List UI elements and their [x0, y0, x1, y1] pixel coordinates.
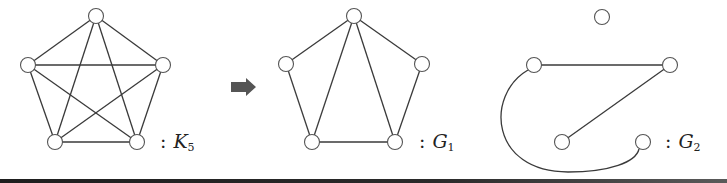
node-right [663, 58, 678, 73]
node-bottom-right [130, 135, 145, 150]
label-k5: :K5 [160, 130, 195, 154]
label-colon: : [665, 130, 671, 152]
node-top [595, 10, 610, 25]
node-right [415, 57, 430, 72]
edge-top-bottom-left [312, 16, 354, 142]
label-colon: : [160, 130, 166, 152]
label-subscript: 1 [448, 141, 455, 154]
label-subscript: 5 [188, 141, 195, 154]
graph-g1 [279, 9, 430, 150]
graph-diagram-canvas [0, 0, 727, 183]
label-symbol: G [432, 130, 447, 152]
edge-top-bottom-left [55, 16, 96, 142]
graph-g2 [501, 10, 677, 173]
graph-k5 [21, 9, 171, 150]
edge-top-bottom-right [96, 16, 137, 142]
edge-right-bottom-right [395, 64, 422, 142]
curved-edge-left-bottom-right [501, 70, 639, 172]
node-left [279, 57, 294, 72]
label-colon: : [419, 130, 425, 152]
node-bottom-right [388, 135, 403, 150]
edge-top-right [354, 16, 422, 64]
label-g2: :G2 [665, 130, 701, 154]
edge-left-bottom-left [28, 65, 55, 142]
label-symbol: G [678, 130, 693, 152]
label-subscript: 2 [694, 141, 701, 154]
edge-top-left [28, 16, 96, 65]
edge-left-bottom-left [286, 64, 312, 142]
node-right [156, 58, 171, 73]
node-left [527, 58, 542, 73]
bottom-border [0, 179, 727, 183]
edge-top-bottom-right [354, 16, 395, 142]
node-bottom-left [305, 135, 320, 150]
label-g1: :G1 [419, 130, 455, 154]
node-top [347, 9, 362, 24]
label-symbol: K [173, 130, 187, 152]
edge-right-bottom-left [562, 65, 670, 142]
node-top [89, 9, 104, 24]
edge-right-bottom-left [55, 65, 163, 142]
node-bottom-left [48, 135, 63, 150]
node-left [21, 58, 36, 73]
right-arrow-icon [231, 78, 256, 96]
edge-top-right [96, 16, 163, 65]
node-bottom-right [636, 135, 651, 150]
node-bottom-left [555, 135, 570, 150]
edge-left-bottom-right [28, 65, 137, 142]
edge-top-left [286, 16, 354, 64]
